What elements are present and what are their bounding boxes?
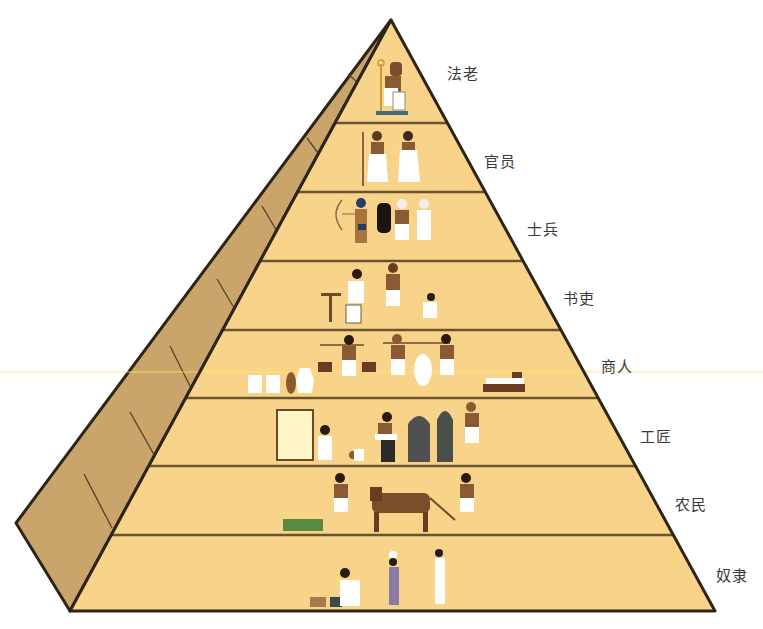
tier-label-slaves: 奴隶 [716,564,748,585]
tier-label-scribes: 书吏 [563,287,595,308]
tier-label-soldiers: 士兵 [527,218,559,239]
pyramid-diagram: 法老 官员 士兵 书吏 商人 工匠 农民 奴隶 [0,0,763,629]
tier-label-pharaoh: 法老 [447,62,479,83]
pyramid-svg [0,0,763,629]
tier-label-farmers: 农民 [675,493,707,514]
tier-label-officials: 官员 [484,150,516,171]
tier-label-merchants: 商人 [601,355,633,376]
tier-label-artisans: 工匠 [640,425,672,446]
